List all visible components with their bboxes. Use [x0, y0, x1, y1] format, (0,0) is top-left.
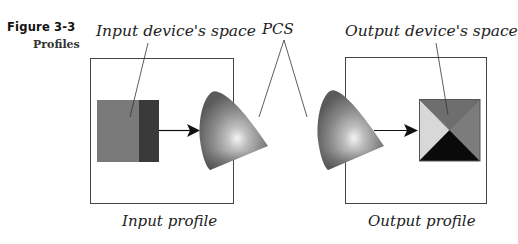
input-space-label: Input device's space: [96, 22, 256, 40]
input-arrow: [159, 124, 200, 137]
pcs-gamut-left: [200, 91, 268, 170]
pcs-leader-left: [259, 40, 284, 117]
pcs-label: PCS: [262, 20, 294, 38]
output-space-label: Output device's space: [345, 22, 518, 40]
input-profile-label: Input profile: [122, 212, 217, 230]
output-arrow: [374, 124, 418, 137]
pcs-leader-right: [284, 40, 307, 117]
input-device-swatch: [97, 100, 159, 162]
output-profile-label: Output profile: [368, 212, 476, 230]
output-device-swatch: [419, 99, 480, 161]
